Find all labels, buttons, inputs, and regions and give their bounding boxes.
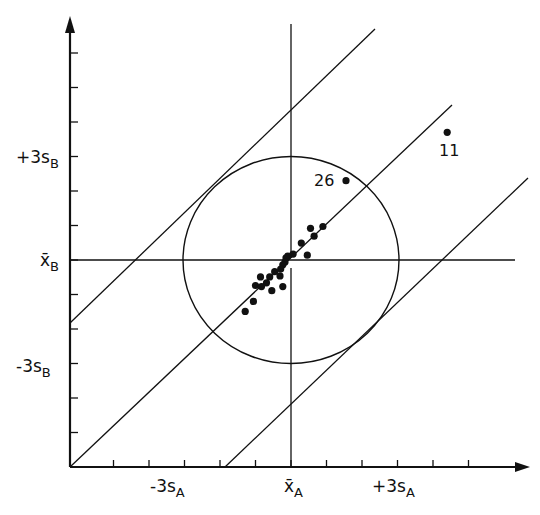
data-point [298,240,305,247]
data-point [304,252,311,259]
point-label-11: 11 [439,141,459,160]
data-point [242,308,249,315]
x-label-plus3s: +3sA [372,476,415,500]
y-label-plus3s: +3sB [16,147,59,171]
y-axis-arrow-icon [65,16,75,33]
data-point [307,225,314,232]
data-points [242,129,451,315]
data-point [263,279,270,286]
data-point [257,273,264,280]
data-point [311,233,318,240]
data-point [279,283,286,290]
reference-lines [70,29,528,467]
data-point [319,223,326,230]
data-point-11 [444,129,451,136]
x-label-minus3s: -3sA [150,476,185,500]
data-point [276,272,283,279]
axes [65,16,530,472]
y-label-mean: x̄B [40,250,59,274]
point-label-26: 26 [314,171,334,190]
data-point [252,282,259,289]
youden-plot: -3sA x̄A +3sA +3sB x̄B -3sB 26 11 [0,0,540,515]
data-point [268,287,275,294]
x-label-mean: x̄A [284,476,303,500]
x-axis-arrow-icon [515,462,530,472]
data-point-26 [342,177,349,184]
data-point [250,298,257,305]
y-label-minus3s: -3sB [16,356,51,380]
